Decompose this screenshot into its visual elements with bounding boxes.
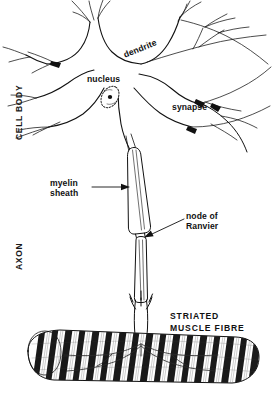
dendrite-branches [3, 0, 271, 152]
label-node-of-ranvier-line2: Ranvier [186, 221, 218, 231]
muscle-fibre [28, 325, 262, 399]
label-myelin-sheath-line2: sheath [50, 188, 78, 198]
label-striated-muscle-fibre-line2: MUSCLE FIBRE [170, 322, 245, 334]
synapse-boutons [50, 61, 221, 134]
striation-bands [31, 325, 262, 399]
myelin-internode-upper [128, 148, 151, 235]
label-striated-muscle-fibre-line1: STRIATED [170, 310, 245, 322]
label-striated-muscle-fibre: STRIATED MUSCLE FIBRE [170, 310, 245, 335]
label-myelin-sheath-line1: myelin [50, 178, 78, 188]
diagram-ink [3, 0, 271, 399]
label-synapse: synapse [172, 102, 207, 112]
label-node-of-ranvier: node of Ranvier [186, 211, 218, 231]
label-node-of-ranvier-line1: node of [186, 211, 218, 221]
neurone-muscle-diagram [0, 0, 273, 419]
region-label-cell-body: CELL BODY [14, 85, 24, 140]
region-label-axon: AXON [14, 243, 24, 270]
label-nucleus: nucleus [87, 74, 120, 84]
label-myelin-sheath: myelin sheath [50, 178, 78, 198]
